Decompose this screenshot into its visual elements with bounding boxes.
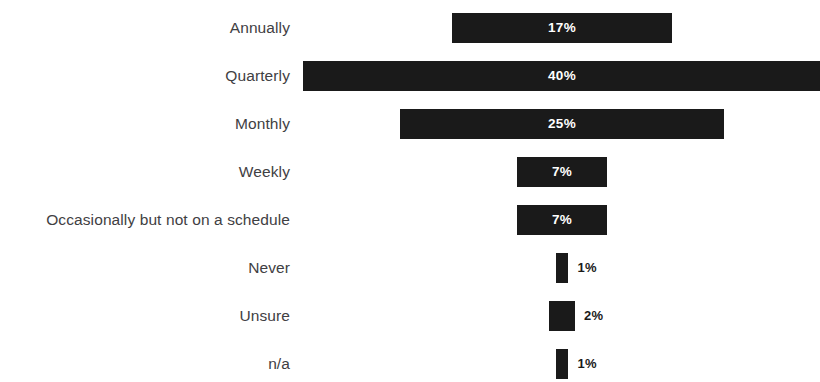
chart-row: Never1% (0, 244, 820, 292)
chart-row: n/a1% (0, 340, 820, 382)
bar-track: 7% (290, 148, 820, 196)
bar-group: 40% (303, 61, 820, 91)
bar-track: 1% (290, 340, 820, 382)
bar-track: 17% (290, 4, 820, 52)
bar-group: 7% (517, 205, 608, 235)
bar-track: 25% (290, 100, 820, 148)
bar-group: 25% (400, 109, 724, 139)
chart-row: Monthly25% (0, 100, 820, 148)
category-label: Occasionally but not on a schedule (0, 196, 290, 244)
bar-value-label: 2% (584, 301, 603, 331)
bar-chart: Annually17%Quarterly40%Monthly25%Weekly7… (0, 0, 820, 382)
bar[interactable] (556, 349, 569, 379)
chart-row: Weekly7% (0, 148, 820, 196)
bar-group: 2% (549, 301, 575, 331)
bar-group: 1% (556, 253, 569, 283)
bar-value-label: 7% (517, 205, 608, 235)
bar-group: 7% (517, 157, 608, 187)
category-label: n/a (0, 340, 290, 382)
bar-value-label: 7% (517, 157, 608, 187)
bar-value-label: 17% (452, 13, 672, 43)
category-label: Quarterly (0, 52, 290, 100)
bar-value-label: 25% (400, 109, 724, 139)
bar-track: 2% (290, 292, 820, 340)
category-label: Unsure (0, 292, 290, 340)
category-label: Never (0, 244, 290, 292)
bar-value-label: 40% (303, 61, 820, 91)
bar-track: 40% (290, 52, 820, 100)
chart-row: Quarterly40% (0, 52, 820, 100)
bar-track: 7% (290, 196, 820, 244)
category-label: Weekly (0, 148, 290, 196)
category-label: Annually (0, 4, 290, 52)
bar[interactable] (549, 301, 575, 331)
bar-track: 1% (290, 244, 820, 292)
bar-group: 1% (556, 349, 569, 379)
chart-row: Annually17% (0, 4, 820, 52)
bar[interactable] (556, 253, 569, 283)
chart-row: Occasionally but not on a schedule7% (0, 196, 820, 244)
bar-group: 17% (452, 13, 672, 43)
chart-row: Unsure2% (0, 292, 820, 340)
bar-value-label: 1% (577, 349, 596, 379)
chart-plot-area: Annually17%Quarterly40%Monthly25%Weekly7… (0, 0, 820, 382)
category-label: Monthly (0, 100, 290, 148)
bar-value-label: 1% (577, 253, 596, 283)
